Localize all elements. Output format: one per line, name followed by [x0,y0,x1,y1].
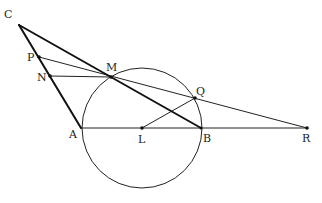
point-B [200,127,203,130]
point-N [48,74,52,78]
label-P: P [27,51,35,64]
point-R [305,126,309,130]
point-L [140,126,144,130]
label-L: L [138,133,146,146]
label-R: R [302,132,311,145]
point-P [37,55,41,59]
point-M [109,75,113,79]
segment-NM [50,76,111,77]
segment-PR [39,57,307,128]
label-C: C [4,8,12,21]
label-Q: Q [196,85,205,98]
label-A: A [68,128,78,141]
label-N: N [37,71,47,84]
label-M: M [106,61,117,74]
geometry-diagram: C P N M Q A L B R [0,0,322,203]
label-B: B [203,132,211,145]
segment-LQ [142,98,195,128]
